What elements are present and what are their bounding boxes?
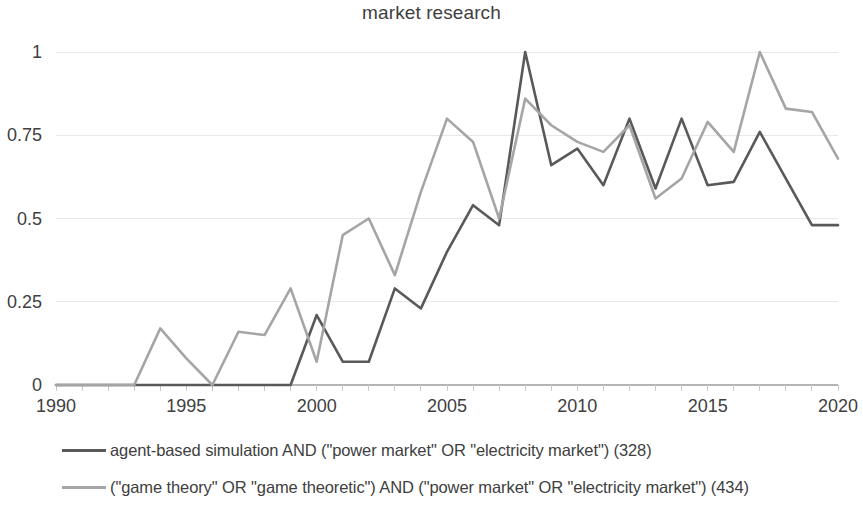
plot-area: 00.250.50.751199019952000200520102015202… xyxy=(0,0,863,430)
legend-item-label: agent-based simulation AND ("power marke… xyxy=(110,441,652,460)
x-axis-tick-label: 2005 xyxy=(427,396,467,416)
x-axis-tick-label: 1995 xyxy=(166,396,206,416)
x-axis-tick-label: 2000 xyxy=(297,396,337,416)
legend-item-label: ("game theory" OR "game theoretic") AND … xyxy=(110,478,749,497)
chart-legend: agent-based simulation AND ("power marke… xyxy=(62,432,852,506)
legend-item[interactable]: agent-based simulation AND ("power marke… xyxy=(62,432,852,469)
y-axis-tick-label: 0 xyxy=(32,375,42,395)
y-axis-tick-label: 0.25 xyxy=(7,292,42,312)
legend-color-swatch xyxy=(62,486,106,489)
legend-item[interactable]: ("game theory" OR "game theoretic") AND … xyxy=(62,469,852,506)
x-axis-tick-label: 2015 xyxy=(688,396,728,416)
x-axis-tick-label: 2010 xyxy=(557,396,597,416)
y-axis-tick-label: 0.75 xyxy=(7,125,42,145)
chart-container: market research 00.250.50.75119901995200… xyxy=(0,0,863,523)
x-axis-tick-label: 1990 xyxy=(36,396,76,416)
y-axis-tick-label: 1 xyxy=(32,42,42,62)
y-axis-tick-label: 0.5 xyxy=(17,209,42,229)
legend-color-swatch xyxy=(62,449,106,452)
x-axis-tick-label: 2020 xyxy=(818,396,858,416)
